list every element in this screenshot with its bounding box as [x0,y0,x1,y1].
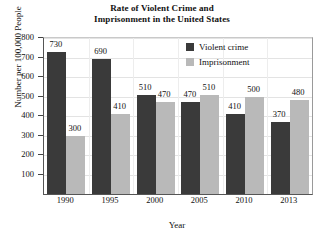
bar-value-label: 410 [221,102,248,111]
legend-label-imprisonment: Imprisonment [199,57,250,67]
gridline-vertical [89,38,90,194]
chart-legend: Violent crime Imprisonment [186,40,306,70]
x-axis-title: Year [43,220,311,230]
bar-imprisonment-2000 [156,102,175,194]
y-axis-tick-label: 100 [0,170,34,179]
bar-value-label: 690 [87,47,114,56]
x-axis-tick-label: 1995 [88,196,133,205]
bar-value-label: 510 [195,83,222,92]
bar-imprisonment-2005 [200,95,219,194]
bar-value-label: 370 [266,110,293,119]
x-axis-tick-label: 2010 [222,196,267,205]
y-axis-tick-label: 500 [0,92,34,101]
y-axis-tick-label: 400 [0,111,34,120]
bar-value-label: 410 [106,102,133,111]
chart-title-line-2: Imprisonment in the United States [0,14,324,25]
legend-item-imprisonment: Imprisonment [186,55,306,69]
bar-violent-crime-2010 [226,114,245,194]
bar-value-label: 470 [151,90,178,99]
x-axis-tick-label: 2000 [132,196,177,205]
gridline-vertical [178,38,179,194]
gridline-vertical [133,38,134,194]
bar-value-label: 470 [176,90,203,99]
y-axis-tick-label: 800 [0,33,34,42]
legend-item-violent-crime: Violent crime [186,40,306,54]
bar-imprisonment-1995 [111,114,130,194]
legend-swatch-violent-crime [186,43,194,51]
bar-violent-crime-2005 [181,102,200,194]
chart-title-line-1: Rate of Violent Crime and [0,3,324,14]
bar-imprisonment-1990 [66,136,85,195]
y-axis-tick-label: 200 [0,150,34,159]
bar-violent-crime-1995 [92,59,111,194]
y-axis-tick-label: 600 [0,72,34,81]
bar-value-label: 480 [285,88,312,97]
y-axis-tick-label: 300 [0,131,34,140]
bar-value-label: 300 [61,124,88,133]
x-axis-tick-label: 1990 [43,196,88,205]
y-axis-tick-label: 700 [0,53,34,62]
legend-swatch-imprisonment [186,58,194,66]
x-axis-tick-label: 2005 [177,196,222,205]
legend-label-violent-crime: Violent crime [199,42,248,52]
chart-title: Rate of Violent Crime and Imprisonment i… [0,3,324,25]
bar-value-label: 730 [42,40,69,49]
bar-violent-crime-2013 [271,122,290,194]
bar-violent-crime-2000 [137,95,156,194]
bar-value-label: 500 [240,85,267,94]
chart-figure: Rate of Violent Crime and Imprisonment i… [0,0,324,238]
x-axis-tick-label: 2013 [266,196,311,205]
bar-imprisonment-2010 [245,97,264,195]
